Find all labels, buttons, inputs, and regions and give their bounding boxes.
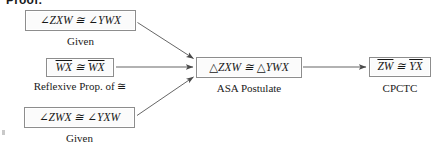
proof-flowchart-figure: Proof: ∠ZXW ≅ ∠YWX Given WX ≅ WX Reflexi… bbox=[0, 0, 436, 150]
segment-wx-left: WX bbox=[56, 61, 73, 73]
segment-wx-right: WX bbox=[88, 61, 105, 73]
statement-box-reflexive-segment: WX ≅ WX bbox=[46, 58, 114, 77]
reason-label-triangle-congruence: ASA Postulate bbox=[196, 83, 302, 94]
page-edge-artifact bbox=[2, 130, 5, 135]
statement-text: △ZXW ≅ △YWX bbox=[207, 62, 290, 74]
statement-text: ZW ≅ YX bbox=[375, 61, 424, 73]
statement-box-given-angle-2: ∠ZWX ≅ ∠YXW bbox=[24, 107, 135, 128]
statement-box-given-angle-1: ∠ZXW ≅ ∠YWX bbox=[25, 10, 136, 31]
segment-zw: ZW bbox=[377, 60, 393, 72]
reason-label-reflexive-segment: Reflexive Prop. of ≅ bbox=[5, 81, 155, 92]
congruence-symbol: ≅ bbox=[393, 60, 409, 72]
statement-box-triangle-congruence: △ZXW ≅ △YWX bbox=[196, 57, 302, 78]
reason-label-given-angle-1: Given bbox=[25, 36, 136, 47]
congruence-symbol: ≅ bbox=[72, 61, 88, 73]
reason-label-segment-congruence: CPCTC bbox=[369, 83, 431, 94]
statement-text: ∠ZXW ≅ ∠YWX bbox=[38, 15, 123, 27]
statement-text: ∠ZWX ≅ ∠YXW bbox=[37, 112, 122, 124]
statement-text: WX ≅ WX bbox=[54, 62, 107, 74]
segment-yx: YX bbox=[409, 60, 422, 72]
arrow-given1-to-triangle bbox=[138, 23, 194, 59]
reason-label-given-angle-2: Given bbox=[24, 133, 135, 144]
statement-box-segment-congruence: ZW ≅ YX bbox=[369, 57, 431, 77]
